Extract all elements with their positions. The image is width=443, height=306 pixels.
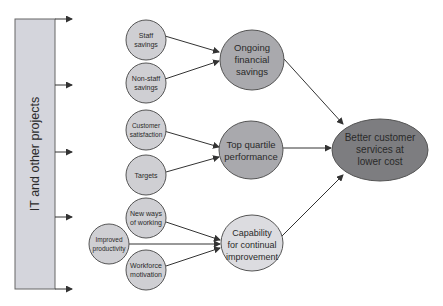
svg-text:Ongoing: Ongoing [234, 42, 270, 53]
source-box: IT and other projects [15, 19, 55, 289]
svg-text:satisfaction: satisfaction [130, 131, 163, 138]
svg-text:New ways: New ways [130, 210, 162, 218]
svg-text:Non-staff: Non-staff [132, 75, 160, 82]
node-non-staff-savings: Non-staff savings [126, 63, 166, 103]
node-workforce-motivation: Workforce motivation [126, 250, 166, 290]
svg-text:Better customer: Better customer [345, 132, 416, 143]
svg-text:productivity: productivity [93, 245, 127, 253]
svg-text:of working: of working [130, 219, 162, 227]
node-better-customer-services: Better customer services at lower cost [332, 119, 428, 181]
svg-text:performance: performance [224, 151, 277, 162]
svg-text:savings: savings [236, 66, 268, 77]
svg-text:Capability: Capability [232, 228, 272, 238]
node-customer-satisfaction: Customer satisfaction [126, 110, 166, 150]
svg-text:Improved: Improved [95, 236, 122, 244]
svg-text:Staff: Staff [139, 32, 153, 39]
box-output-arrows [55, 19, 72, 289]
diagram-canvas: IT and other projects Staff savings Non-… [0, 0, 443, 306]
node-top-quartile-performance: Top quartile performance [219, 121, 283, 179]
node-targets: Targets [126, 155, 166, 195]
node-improved-productivity: Improved productivity [89, 224, 129, 264]
node-ongoing-financial-savings: Ongoing financial savings [220, 30, 284, 90]
svg-text:services at: services at [356, 144, 404, 155]
svg-text:savings: savings [134, 41, 158, 49]
svg-text:lower cost: lower cost [357, 156, 402, 167]
node-new-ways-of-working: New ways of working [126, 198, 166, 238]
svg-text:motivation: motivation [130, 271, 162, 278]
svg-text:savings: savings [134, 84, 158, 92]
svg-text:Targets: Targets [135, 172, 158, 180]
svg-text:improvement: improvement [226, 252, 279, 262]
node-staff-savings: Staff savings [126, 20, 166, 60]
svg-text:financial: financial [235, 54, 270, 65]
svg-text:for continual: for continual [227, 240, 276, 250]
svg-text:Workforce: Workforce [130, 262, 162, 269]
svg-text:Top quartile: Top quartile [226, 139, 275, 150]
source-box-label: IT and other projects [28, 97, 42, 211]
node-capability-continual-improvement: Capability for continual improvement [221, 215, 283, 271]
svg-text:Customer: Customer [132, 122, 161, 129]
